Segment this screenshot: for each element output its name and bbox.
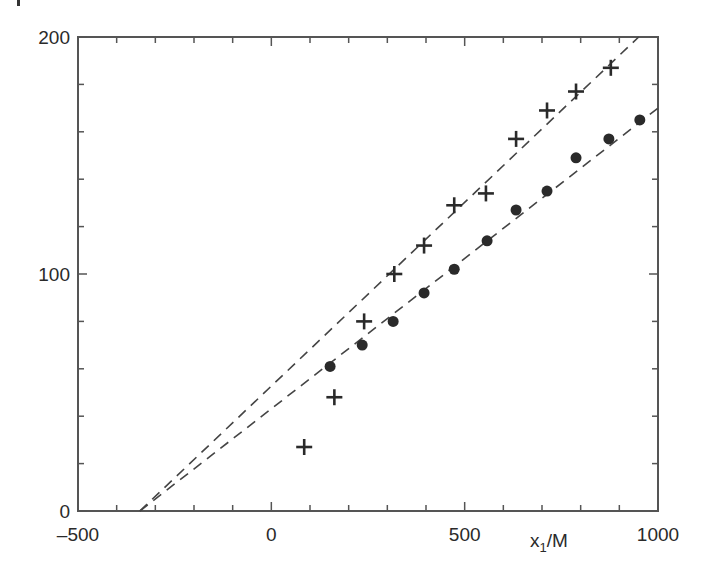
dot-marker <box>634 114 645 125</box>
x-tick-labels: –50005001000 <box>57 524 679 545</box>
dot-marker <box>325 361 336 372</box>
plot-frame <box>78 37 658 511</box>
plus-marker <box>416 238 432 254</box>
x-axis-label: x1/M <box>530 530 568 555</box>
plus-marker <box>296 439 312 455</box>
dot-marker <box>388 316 399 327</box>
plus-marker <box>603 60 619 76</box>
plus-marker <box>568 84 584 100</box>
dot-marker <box>542 186 553 197</box>
y-tick-label: 0 <box>59 501 70 522</box>
y-tick-label: 200 <box>38 27 70 48</box>
y-tick-labels: 0100200 <box>38 27 70 522</box>
dot-marker <box>449 264 460 275</box>
dot-marker <box>357 340 368 351</box>
dot-marker <box>482 235 493 246</box>
plus-marker <box>478 185 494 201</box>
x-tick-label: 1000 <box>637 524 679 545</box>
y-tick-label: 100 <box>38 264 70 285</box>
plus-marker <box>446 197 462 213</box>
plus-marker <box>386 266 402 282</box>
axis-ticks <box>78 37 658 511</box>
dot-marker <box>419 287 430 298</box>
dot-marker <box>571 152 582 163</box>
scatter-chart: –50005001000 0100200 x1/M <box>0 0 714 568</box>
dot-marker <box>511 205 522 216</box>
plot-border <box>78 37 658 511</box>
x-tick-label: 0 <box>266 524 277 545</box>
data-markers <box>296 60 645 455</box>
plus-marker <box>326 389 342 405</box>
dot-fit-line <box>140 108 658 511</box>
dot-marker <box>603 133 614 144</box>
x-tick-label: 500 <box>449 524 481 545</box>
plus-marker <box>539 102 555 118</box>
plus-marker <box>508 131 524 147</box>
plus-marker <box>356 313 372 329</box>
x-tick-label: –500 <box>57 524 99 545</box>
